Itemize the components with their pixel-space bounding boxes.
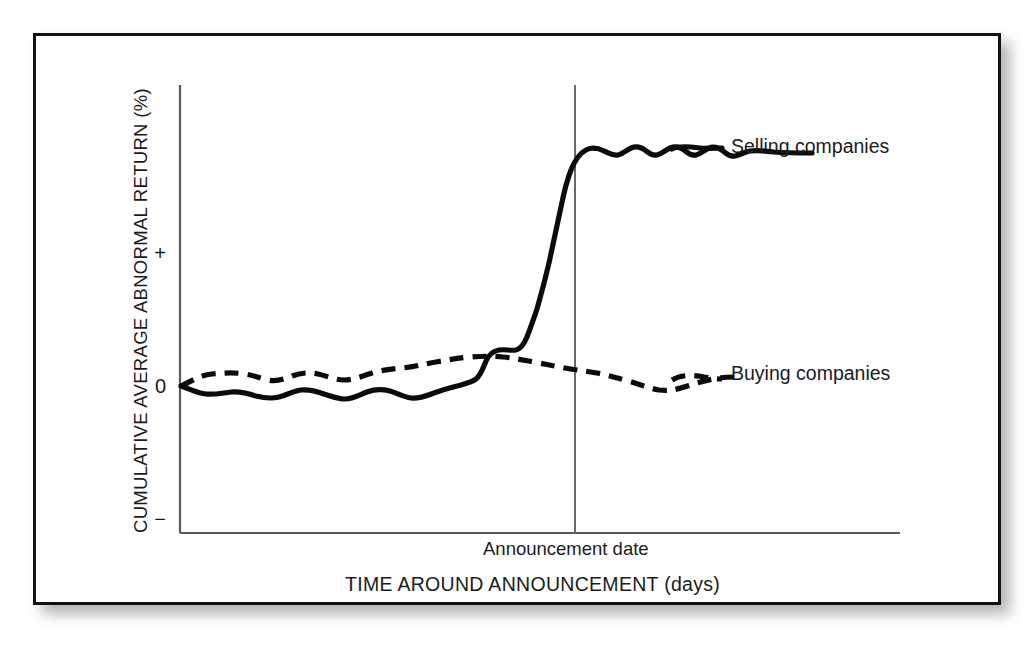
legend-swatch-buying-icon <box>672 375 722 380</box>
announcement-date-label: Announcement date <box>483 538 649 560</box>
legend-label-selling-companies: Selling companies <box>731 135 889 158</box>
legend-swatch-selling-icon <box>672 147 722 149</box>
plot-canvas <box>0 0 1034 668</box>
x-axis-title: TIME AROUND ANNOUNCEMENT (days) <box>345 573 720 596</box>
y-axis-title: CUMULATIVE AVERAGE ABNORMAL RETURN (%) <box>130 88 152 533</box>
series-line-selling-companies <box>181 147 812 399</box>
y-axis-tick-positive: + <box>140 242 166 265</box>
y-axis-tick-zero: 0 <box>140 375 166 398</box>
figure-root: CUMULATIVE AVERAGE ABNORMAL RETURN (%) T… <box>0 0 1034 668</box>
y-axis-tick-negative: − <box>140 508 166 531</box>
legend-label-buying-companies: Buying companies <box>731 362 890 385</box>
